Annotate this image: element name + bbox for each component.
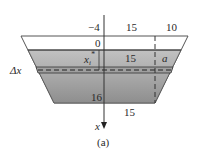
label-bottom-width: 15: [124, 106, 136, 118]
label-axis-x: x: [94, 120, 100, 132]
trough-diagram: −4 15 10 0 xi* 15 a Δx 16 15 x (a): [0, 0, 202, 154]
label-middle-width: 15: [126, 21, 138, 33]
caption: (a): [97, 136, 110, 149]
x-axis-arrow-icon: [101, 122, 107, 129]
label-right-width: 10: [166, 21, 178, 33]
label-side-a: a: [162, 52, 168, 64]
label-surface-zero: 0: [95, 37, 101, 49]
label-strip-width: 15: [125, 52, 137, 64]
label-left-offset: −4: [88, 21, 100, 33]
label-bottom-depth: 16: [91, 91, 103, 103]
label-delta-x: Δx: [9, 64, 21, 76]
